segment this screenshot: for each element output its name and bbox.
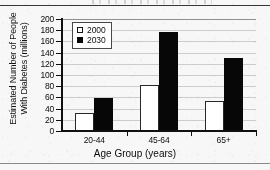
- gridline: [62, 19, 256, 20]
- legend-label-2030: 2030: [87, 36, 106, 45]
- page-rule-top: [0, 5, 270, 6]
- x-axis-category-label: 45-64: [129, 136, 189, 145]
- y-axis-line: [61, 18, 63, 132]
- bar-2000-65+: [205, 101, 224, 131]
- bar-2000-45-64: [140, 85, 159, 131]
- y-axis-title-line-1: Estimated Number of People: [8, 6, 19, 132]
- x-axis-tick-end: [256, 132, 257, 136]
- legend-swatch-filled-square-icon: [77, 37, 83, 43]
- x-axis-category-label: 20-44: [64, 136, 124, 145]
- legend-swatch-open-square-icon: [77, 27, 83, 33]
- y-axis-tick-label: 100: [24, 71, 54, 80]
- legend-item-2030: 2030: [77, 35, 106, 45]
- y-axis-tick-label: 40: [24, 105, 54, 114]
- chart-figure: Estimated Number of People With Diabetes…: [0, 0, 270, 170]
- y-axis-tick-label: 140: [24, 49, 54, 58]
- bar-2030-65+: [224, 58, 243, 131]
- x-axis-tick: [127, 132, 128, 136]
- legend-item-2000: 2000: [77, 25, 106, 35]
- chart-legend: 2000 2030: [72, 22, 112, 49]
- bar-2000-20-44: [75, 113, 94, 131]
- bar-2030-45-64: [159, 32, 178, 131]
- cut-off-text-remnant: [92, 0, 212, 4]
- x-axis-tick: [191, 132, 192, 136]
- x-axis-title: Age Group (years): [0, 148, 270, 159]
- y-axis-tick-label: 80: [24, 82, 54, 91]
- y-axis-tick-label: 160: [24, 37, 54, 46]
- x-axis-line: [61, 130, 257, 132]
- y-axis-tick-label: 200: [24, 15, 54, 24]
- x-axis-category-label: 65+: [194, 136, 254, 145]
- y-axis-tick-label: 180: [24, 26, 54, 35]
- y-axis-tick-label: 0: [24, 127, 54, 136]
- legend-label-2000: 2000: [87, 26, 106, 35]
- bar-2030-20-44: [94, 98, 113, 131]
- y-axis-tick-label: 60: [24, 93, 54, 102]
- page-rule-bottom: [0, 163, 270, 164]
- y-axis-tick-label: 120: [24, 60, 54, 69]
- y-axis-tick-label: 20: [24, 116, 54, 125]
